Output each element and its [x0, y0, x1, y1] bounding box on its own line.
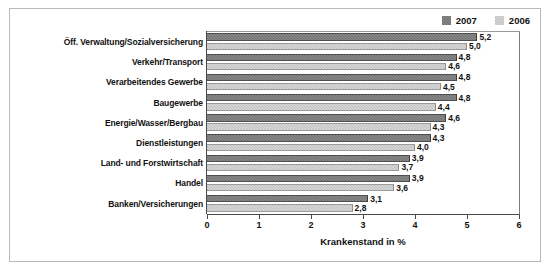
bar-2006: 4,4 — [207, 103, 436, 110]
bar-value-label: 4,3 — [433, 133, 445, 143]
legend-entry-2007: 2007 — [442, 15, 477, 26]
bar-value-label: 4,8 — [459, 72, 471, 82]
category-label: Dienstleistungen — [136, 138, 203, 148]
bar-row: Öff. Verwaltung/Sozialversicherung5,25,0 — [207, 32, 519, 52]
x-tick — [311, 215, 312, 219]
bar-2007: 3,9 — [207, 155, 410, 162]
category-label: Energie/Wasser/Bergbau — [105, 118, 203, 128]
x-tick-label: 1 — [256, 220, 261, 230]
bar-row: Land- und Forstwirtschaft3,93,7 — [207, 153, 519, 173]
bar-value-label: 3,1 — [370, 194, 382, 204]
bar-row: Energie/Wasser/Bergbau4,64,3 — [207, 113, 519, 133]
bar-value-label: 4,0 — [417, 142, 429, 152]
bar-value-label: 4,3 — [433, 122, 445, 132]
bar-row: Banken/Versicherungen3,12,8 — [207, 194, 519, 214]
chart-frame: 2007 2006 Öff. Verwaltung/Sozialversiche… — [9, 8, 541, 262]
bar-value-label: 4,6 — [448, 61, 460, 71]
bar-2007: 3,1 — [207, 195, 368, 202]
bar-2007: 5,2 — [207, 33, 477, 40]
bar-2006: 4,5 — [207, 83, 441, 90]
bar-row: Dienstleistungen4,34,0 — [207, 133, 519, 153]
x-tick — [519, 215, 520, 219]
bar-2006: 3,7 — [207, 164, 399, 171]
bar-value-label: 5,0 — [469, 41, 481, 51]
bar-value-label: 3,6 — [396, 183, 408, 193]
bar-value-label: 4,6 — [448, 113, 460, 123]
bar-2007: 4,8 — [207, 74, 457, 81]
bar-2006: 4,6 — [207, 63, 446, 70]
bar-value-label: 4,5 — [443, 82, 455, 92]
bar-value-label: 3,9 — [412, 173, 424, 183]
bar-row: Baugewerbe4,84,4 — [207, 93, 519, 113]
bar-2007: 4,6 — [207, 114, 446, 121]
x-tick-label: 3 — [360, 220, 365, 230]
bar-2006: 5,0 — [207, 43, 467, 50]
bar-value-label: 4,4 — [438, 102, 450, 112]
legend-entry-2006: 2006 — [495, 15, 530, 26]
category-label: Banken/Versicherungen — [108, 199, 203, 209]
bar-value-label: 3,7 — [401, 162, 413, 172]
x-tick — [363, 215, 364, 219]
x-tick-label: 0 — [204, 220, 209, 230]
legend-label-2006: 2006 — [509, 15, 530, 26]
category-label: Verarbeitendes Gewerbe — [106, 77, 203, 87]
x-tick — [207, 215, 208, 219]
legend-swatch-2007-icon — [442, 16, 451, 25]
bar-row: Handel3,93,6 — [207, 173, 519, 193]
legend-swatch-2006-icon — [495, 16, 504, 25]
bar-row: Verkehr/Transport4,84,6 — [207, 52, 519, 72]
bar-value-label: 3,9 — [412, 153, 424, 163]
x-tick-label: 5 — [464, 220, 469, 230]
category-label: Land- und Forstwirtschaft — [101, 158, 203, 168]
bar-value-label: 4,8 — [459, 93, 471, 103]
x-axis-title: Krankenstand in % — [207, 236, 519, 247]
bar-value-label: 4,8 — [459, 52, 471, 62]
chart-legend: 2007 2006 — [442, 15, 530, 26]
category-label: Handel — [175, 178, 203, 188]
bar-2006: 3,6 — [207, 184, 394, 191]
bar-value-label: 2,8 — [355, 203, 367, 213]
x-tick — [259, 215, 260, 219]
x-tick-label: 2 — [308, 220, 313, 230]
bar-2007: 4,3 — [207, 134, 431, 141]
category-label: Baugewerbe — [153, 98, 203, 108]
bar-value-label: 5,2 — [479, 32, 491, 42]
category-label: Öff. Verwaltung/Sozialversicherung — [64, 37, 203, 47]
bar-row: Verarbeitendes Gewerbe4,84,5 — [207, 72, 519, 92]
legend-label-2007: 2007 — [456, 15, 477, 26]
bar-2007: 3,9 — [207, 175, 410, 182]
x-tick — [467, 215, 468, 219]
x-tick-label: 4 — [412, 220, 417, 230]
bar-2006: 2,8 — [207, 204, 353, 211]
x-tick-label: 6 — [516, 220, 521, 230]
bar-2007: 4,8 — [207, 94, 457, 101]
bar-2006: 4,3 — [207, 123, 431, 130]
category-label: Verkehr/Transport — [132, 57, 203, 67]
bar-2007: 4,8 — [207, 54, 457, 61]
x-tick — [415, 215, 416, 219]
bar-2006: 4,0 — [207, 144, 415, 151]
plot-area: Öff. Verwaltung/Sozialversicherung5,25,0… — [207, 31, 520, 215]
